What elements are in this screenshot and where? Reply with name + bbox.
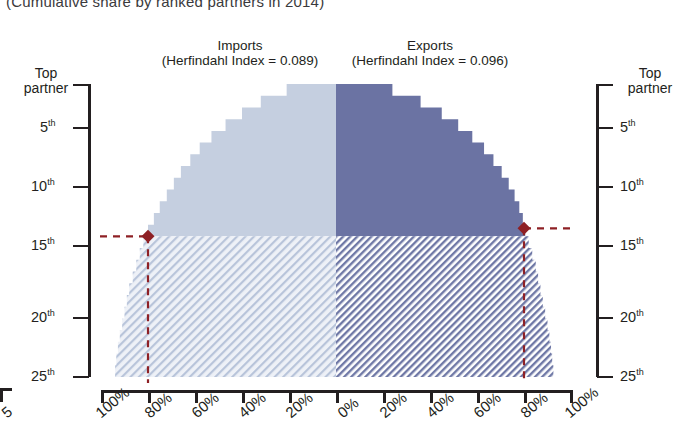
imports-panel-title: Imports (Herfindahl Index = 0.089) (150, 38, 330, 68)
y-axis-left-tick-15 (73, 245, 89, 247)
chart-figure: (Cumulative share by ranked partners in … (0, 0, 686, 442)
y-axis-left-tick-10 (73, 186, 89, 188)
cumulative-share-pyramid (95, 80, 575, 383)
x-axis-label-right-20: 20% (376, 389, 410, 421)
exports-hatched-area (336, 236, 553, 377)
y-axis-left-tick-top (73, 84, 89, 86)
y-axis-right-label-15: 15th (620, 236, 644, 253)
y-right-15-value: 15 (620, 237, 636, 253)
exports-herfindahl-label: (Herfindahl Index = 0.096) (340, 53, 520, 68)
y-axis-right-label-20: 20th (620, 308, 644, 325)
y-axis-left-cap-line1: Top (35, 65, 58, 81)
imports-title-text: Imports (150, 38, 330, 53)
y-axis-right-cap: Top partner (614, 66, 686, 96)
y-left-10-value: 10 (31, 178, 47, 194)
x-axis-label-left-40: 40% (235, 389, 269, 421)
x-tick-zero (336, 390, 339, 403)
y-axis-right-label-25: 25th (620, 367, 644, 384)
y-axis-right-cap-line2: partner (628, 80, 672, 96)
y-axis-right-label-10: 10th (620, 177, 644, 194)
y-axis-right-label-5: 5th (620, 118, 636, 135)
x-axis-label-right-80: 80% (517, 389, 551, 421)
y-right-10-suffix: th (636, 177, 644, 187)
x-axis-label-right-60: 60% (470, 389, 504, 421)
y-axis-right-tick-5 (597, 127, 613, 129)
x-axis-label-left-20: 20% (282, 389, 316, 421)
plot-area (95, 80, 575, 383)
y-axis-left-label-25: 25th (31, 367, 55, 384)
x-axis-label-right-100: 100% (561, 383, 601, 421)
y-axis-left-cap-line2: partner (24, 80, 68, 96)
y-right-5-suffix: th (628, 118, 636, 128)
chart-subtitle: (Cumulative share by ranked partners in … (6, 0, 324, 10)
y-axis-right-tick-25 (597, 376, 613, 378)
y-right-20-suffix: th (636, 308, 644, 318)
y-left-25-value: 25 (31, 368, 47, 384)
cropped-left-bracket-vert (0, 388, 3, 402)
x-axis-label-left-80: 80% (141, 389, 175, 421)
y-left-5-suffix: th (48, 118, 56, 128)
y-axis-right-tick-20 (597, 317, 613, 319)
y-left-15-suffix: th (47, 236, 55, 246)
y-axis-right-tick-15 (597, 245, 613, 247)
y-left-20-suffix: th (47, 308, 55, 318)
y-left-5-value: 5 (40, 119, 48, 135)
exports-solid-area (336, 84, 525, 236)
y-axis-left-tick-25 (73, 376, 89, 378)
y-right-25-suffix: th (636, 367, 644, 377)
x-axis-label-cropped: 5 (0, 403, 15, 421)
x-axis-label-left-60: 60% (188, 389, 222, 421)
y-axis-left-cap: Top partner (10, 66, 82, 96)
x-axis-label-left-100: 100% (92, 383, 132, 421)
y-right-10-value: 10 (620, 178, 636, 194)
y-axis-left-label-5: 5th (40, 118, 56, 135)
y-left-20-value: 20 (31, 309, 47, 325)
y-right-25-value: 25 (620, 368, 636, 384)
y-axis-left-tick-5 (73, 127, 89, 129)
y-axis-right-tick-10 (597, 186, 613, 188)
y-axis-right-tick-top (597, 84, 613, 86)
imports-solid-area (148, 84, 336, 236)
y-axis-left-tick-20 (73, 317, 89, 319)
exports-panel-title: Exports (Herfindahl Index = 0.096) (340, 38, 520, 68)
y-left-15-value: 15 (31, 237, 47, 253)
y-right-15-suffix: th (636, 236, 644, 246)
y-left-25-suffix: th (47, 367, 55, 377)
y-axis-left-label-20: 20th (31, 308, 55, 325)
y-axis-left-label-15: 15th (31, 236, 55, 253)
exports-title-text: Exports (340, 38, 520, 53)
imports-herfindahl-label: (Herfindahl Index = 0.089) (150, 53, 330, 68)
y-left-10-suffix: th (47, 177, 55, 187)
y-axis-left-label-10: 10th (31, 177, 55, 194)
x-axis-label-right-40: 40% (423, 389, 457, 421)
y-axis-right-cap-line1: Top (639, 65, 662, 81)
y-right-5-value: 5 (620, 119, 628, 135)
y-right-20-value: 20 (620, 309, 636, 325)
